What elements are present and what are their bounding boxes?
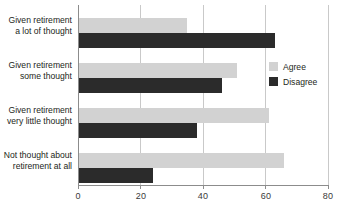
tick-mark-80 [328, 185, 329, 189]
bar-disagree-1 [78, 78, 222, 93]
plot-area [78, 5, 328, 185]
legend-label-agree: Agree [283, 62, 306, 72]
bar-agree-3 [78, 153, 284, 168]
x-tick-label-60: 60 [261, 191, 271, 201]
tick-mark-40 [203, 185, 204, 189]
bar-agree-2 [78, 108, 269, 123]
category-label-2: Given retirement very little thought [0, 105, 72, 126]
x-tick-label-80: 80 [323, 191, 333, 201]
category-label-1: Given retirement some thought [0, 60, 72, 81]
tick-mark-20 [140, 185, 141, 189]
bar-chart: 0 20 40 60 80 Given retirement a lot of … [0, 0, 340, 209]
chart-legend: Agree Disagree [269, 60, 317, 90]
tick-mark-0 [78, 185, 79, 189]
legend-item-disagree: Disagree [269, 75, 317, 88]
x-tick-label-40: 40 [198, 191, 208, 201]
tick-mark-60 [265, 185, 266, 189]
legend-swatch-agree-icon [269, 62, 278, 71]
x-tick-label-0: 0 [75, 191, 80, 201]
category-label-3: Not thought about retirement at all [0, 150, 72, 171]
legend-swatch-disagree-icon [269, 77, 278, 86]
bar-disagree-2 [78, 123, 197, 138]
x-tick-label-20: 20 [136, 191, 146, 201]
legend-label-disagree: Disagree [283, 77, 317, 87]
y-axis-line [78, 5, 79, 186]
bar-disagree-3 [78, 168, 153, 183]
legend-item-agree: Agree [269, 60, 317, 73]
bar-agree-0 [78, 18, 187, 33]
category-label-0: Given retirement a lot of thought [0, 15, 72, 36]
bar-agree-1 [78, 63, 237, 78]
gridline-80 [328, 5, 329, 185]
bar-disagree-0 [78, 33, 275, 48]
